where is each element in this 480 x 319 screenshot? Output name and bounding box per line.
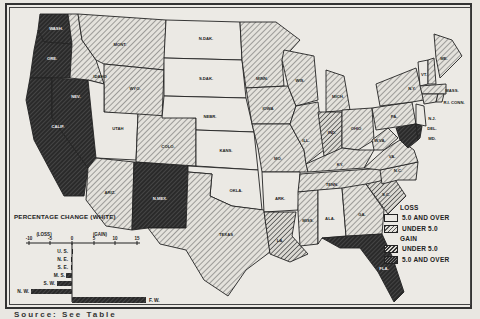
- label-nmex: N.MEX.: [153, 196, 167, 201]
- us-map: WASH. ORE. CALIF. NEV. IDAHO MONT. WYO. …: [0, 0, 480, 319]
- swatch-white: [384, 214, 398, 222]
- label-utah: UTAH: [112, 126, 123, 131]
- label-ndak: N.DAK.: [199, 36, 213, 41]
- state-wyo: [104, 64, 164, 118]
- state-ny: [376, 68, 424, 106]
- svg-text:-10: -10: [26, 236, 33, 241]
- swatch-mid-hatch: [384, 245, 398, 253]
- label-mich: MICH.: [332, 94, 344, 99]
- label-okla: OKLA.: [229, 188, 242, 193]
- legend-loss-heading: LOSS: [400, 204, 474, 211]
- state-ark: [262, 172, 300, 212]
- label-del: DEL.: [427, 126, 437, 131]
- label-ga: GA.: [358, 212, 365, 217]
- svg-text:0: 0: [71, 236, 74, 241]
- label-wva: W.VA.: [374, 138, 386, 143]
- label-la: LA.: [277, 238, 284, 243]
- state-nh: [428, 58, 436, 84]
- label-minn: MINN.: [256, 76, 268, 81]
- label-ind: IND.: [328, 130, 336, 135]
- percentage-change-chart: (LOSS) (GAIN) -10 -5 0 5 10 15 U. S. N. …: [17, 232, 159, 303]
- label-sdak: S.DAK.: [199, 76, 213, 81]
- label-mont: MONT.: [113, 42, 126, 47]
- label-ohio: OHIO: [351, 126, 362, 131]
- svg-text:N. W.: N. W.: [17, 289, 29, 294]
- label-texas: TEXAS: [219, 232, 233, 237]
- svg-text:15: 15: [134, 236, 140, 241]
- state-iowa: [246, 86, 296, 124]
- legend-item-gain-under-5: UNDER 5.0: [384, 244, 474, 253]
- label-ky: KY.: [337, 162, 344, 167]
- label-wyo: WYO.: [129, 86, 140, 91]
- state-conn: [422, 94, 438, 104]
- label-colo: COLO.: [161, 144, 174, 149]
- svg-text:M. S.: M. S.: [54, 273, 65, 278]
- label-iowa: IOWA: [262, 106, 273, 111]
- label-mass: MASS.: [445, 88, 458, 93]
- source-caption: Source: See Table: [14, 310, 117, 319]
- label-calif: CALIF.: [51, 124, 64, 129]
- svg-text:-5: -5: [48, 236, 52, 241]
- label-kans: KANS.: [219, 148, 232, 153]
- legend-item-loss-under-5: UNDER 5.0: [384, 224, 474, 233]
- label-idaho: IDAHO: [93, 74, 107, 79]
- label-nj: N.J.: [428, 116, 436, 121]
- state-me: [434, 34, 462, 78]
- label-fla: FLA.: [379, 266, 388, 271]
- legend-gain-heading: GAIN: [400, 235, 474, 242]
- label-pa: PA.: [391, 114, 398, 119]
- label-mo: MO.: [274, 156, 282, 161]
- state-mass: [420, 84, 446, 94]
- legend-item-loss-5-over: 5.0 AND OVER: [384, 213, 474, 222]
- label-wis: WIS.: [295, 78, 304, 83]
- label-ore: ORE.: [47, 56, 57, 61]
- swatch-dark-hatch: [384, 256, 398, 264]
- label-nebr: NEBR.: [203, 114, 216, 119]
- label-va: VA.: [389, 154, 396, 159]
- state-mich: [326, 70, 350, 112]
- svg-text:F. W.: F. W.: [149, 298, 160, 303]
- label-miss: MISS.: [302, 218, 313, 223]
- label-wash: WASH.: [49, 26, 63, 31]
- label-ri-conn: R.I. CONN.: [443, 100, 464, 105]
- label-vt: VT.: [421, 72, 427, 77]
- svg-text:S. W.: S. W.: [44, 281, 55, 286]
- label-ark: ARK.: [275, 196, 285, 201]
- label-nc: N.C.: [394, 168, 402, 173]
- label-ny: N.Y.: [408, 86, 416, 91]
- legend-item-gain-5-over: 5.0 AND OVER: [384, 255, 474, 264]
- state-colo: [136, 114, 196, 166]
- label-me: ME.: [440, 56, 447, 61]
- label-ariz: ARIZ.: [105, 190, 116, 195]
- svg-text:10: 10: [112, 236, 118, 241]
- svg-text:U. S.: U. S.: [57, 249, 68, 254]
- label-ill: ILL.: [302, 138, 309, 143]
- label-md: MD.: [428, 136, 436, 141]
- swatch-light-hatch: [384, 225, 398, 233]
- svg-text:S. E.: S. E.: [58, 265, 68, 270]
- chart-title: PERCENTAGE CHANGE (WHITE): [14, 213, 116, 221]
- label-ala: ALA.: [325, 216, 335, 221]
- label-sc: S.C.: [382, 192, 390, 197]
- label-nev: NEV.: [71, 94, 80, 99]
- state-nj: [416, 104, 426, 126]
- map-legend: LOSS 5.0 AND OVER UNDER 5.0 GAIN UNDER 5…: [384, 202, 474, 266]
- svg-text:N. E.: N. E.: [57, 257, 68, 262]
- label-tenn: TENN.: [326, 182, 339, 187]
